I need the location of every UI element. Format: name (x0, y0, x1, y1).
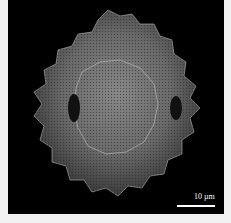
pollen-grain (8, 0, 224, 214)
micrograph: 10 µm (8, 0, 224, 214)
scale-bar-label: 10 µm (194, 192, 215, 201)
scale-bar (177, 205, 215, 207)
